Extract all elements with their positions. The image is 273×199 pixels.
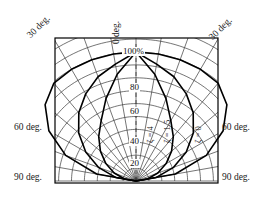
radial-tick-label: 80	[129, 83, 140, 92]
angle-label-top-0: 0 deg.	[111, 21, 121, 44]
curve-label-zeta: ζ = 0	[193, 126, 203, 143]
grid-radial-line	[63, 0, 136, 181]
polar-radiation-diagram: 60 deg. 90 deg. 60 deg. 90 deg. 0 deg. 3…	[0, 0, 273, 199]
angle-label-right-60: 60 deg.	[222, 122, 250, 132]
radial-tick-label: 20	[129, 159, 140, 168]
grid-radial-line	[136, 0, 209, 181]
radial-tick-label: 60	[129, 107, 140, 116]
curve-label-zeta: ζ = 1.5	[162, 120, 172, 143]
angle-label-left-90: 90 deg.	[14, 172, 42, 182]
grid-radial-line	[136, 0, 173, 181]
radial-tick-label: 100%	[122, 47, 145, 56]
radial-tick-label: 40	[129, 137, 140, 146]
curve-label-zeta: ζ = 4	[145, 126, 155, 143]
angle-label-left-60: 60 deg.	[14, 122, 42, 132]
angle-label-right-90: 90 deg.	[222, 172, 250, 182]
grid-radial-line	[136, 144, 273, 181]
